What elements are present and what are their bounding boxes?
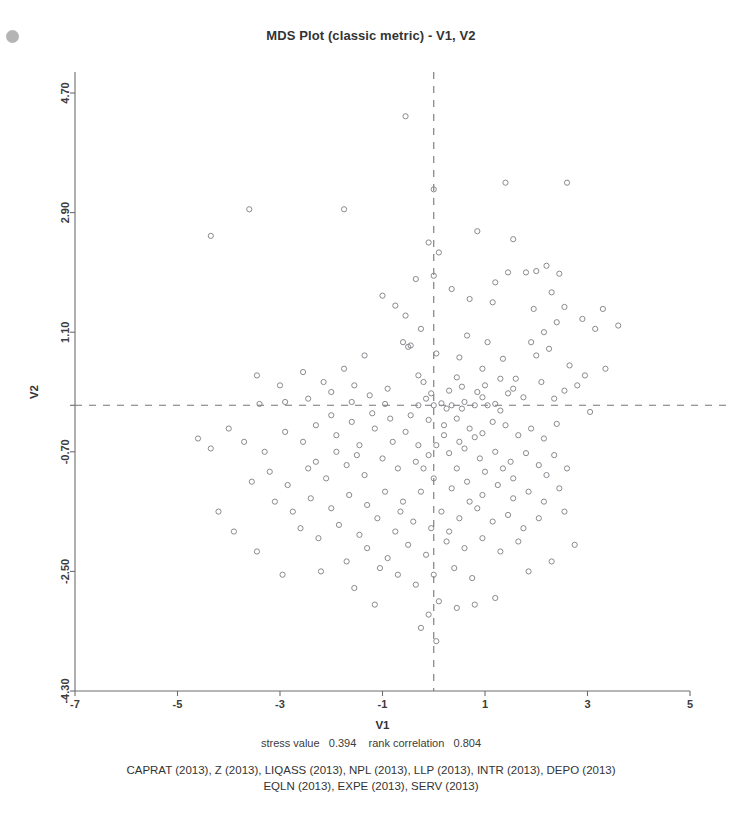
rank-correlation-value: 0.804 [454,737,482,749]
x-tick-label: -7 [70,698,80,710]
x-tick-label: 3 [584,698,590,710]
y-tick-label: -2.50 [59,559,71,584]
y-tick-label: -0.70 [59,439,71,464]
variable-list: CAPRAT (2013), Z (2013), LIQASS (2013), … [0,762,742,794]
stress-annotation: stress value 0.394 rank correlation 0.80… [0,737,742,749]
x-tick-label: 1 [482,698,488,710]
reference-lines [75,72,732,691]
y-tick-label: 2.90 [59,202,71,223]
variable-line-2: EQLN (2013), EXPE (2013), SERV (2013) [0,778,742,794]
y-axis-label: V2 [28,385,40,399]
rank-correlation-label: rank correlation [369,737,445,749]
y-tick-label: 1.10 [59,321,71,342]
stress-label: stress value [261,737,320,749]
x-axis-label: V1 [375,719,390,731]
x-tick-label: -5 [173,698,183,710]
scatter-points-layer [195,114,620,644]
y-tick-label: -4.30 [59,678,71,703]
x-tick-label: -3 [275,698,285,710]
axis-labels-layer: -7-5-3-11354.702.901.10-0.70-2.50-4.30V1… [28,82,693,731]
stress-value: 0.394 [329,737,357,749]
variable-line-1: CAPRAT (2013), Z (2013), LIQASS (2013), … [0,762,742,778]
axes-layer [70,72,690,696]
x-tick-label: -1 [378,698,388,710]
x-tick-label: 5 [687,698,693,710]
y-tick-label: 4.70 [59,82,71,103]
mds-scatter-plot: -7-5-3-11354.702.901.10-0.70-2.50-4.30V1… [0,0,742,818]
